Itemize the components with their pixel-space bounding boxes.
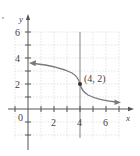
curve-right-arrow-icon: [115, 100, 122, 106]
x-tick-4: 4: [77, 117, 82, 128]
origin-label: 0: [18, 112, 23, 123]
y-tick-4: 4: [15, 53, 20, 64]
point-marker: [78, 82, 82, 86]
bullet-dot: [2, 17, 4, 19]
y-tick-6: 6: [15, 27, 20, 38]
curve-left-arrow-icon: [29, 60, 36, 66]
point-label: (4, 2): [84, 73, 106, 85]
x-tick-2: 2: [51, 117, 56, 128]
x-axis-label: x: [125, 113, 130, 123]
y-axis-label: y: [18, 14, 23, 24]
x-tick-6: 6: [103, 117, 108, 128]
y-tick-2: 2: [15, 79, 20, 90]
x-axis-arrow-icon: [128, 107, 134, 111]
y-axis-arrow-icon: [26, 14, 30, 20]
graph: (4, 2) 6 4 2 0 2 4 6 y x: [0, 0, 140, 156]
